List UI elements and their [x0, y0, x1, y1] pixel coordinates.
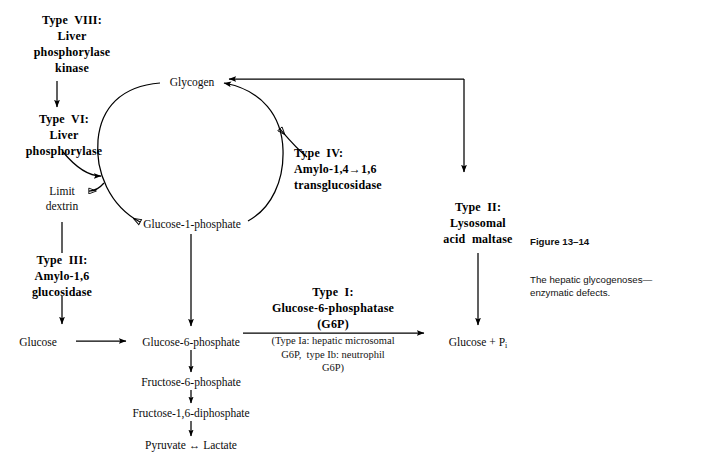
enzyme-label-type-viii: Type VIII: Liver phosphorylase kinase: [8, 12, 136, 76]
enzyme-label-type-iii: Type III: Amylo-1,6 glucosidase: [6, 252, 118, 300]
figure-caption-body: The hepatic glycogenoses— enzymatic defe…: [530, 274, 700, 299]
glucose-pi-subscript: i: [505, 341, 507, 350]
metabolite-limit-dextrin: Limit dextrin: [26, 184, 98, 214]
arc-g1p-to-glycogen: [224, 83, 283, 221]
enzyme-label-type-iv: Type IV: Amylo-1,4→1,6 transglucosidase: [294, 145, 434, 193]
glucose-pi-text: Glucose + P: [449, 336, 505, 348]
enzyme-note-type-i-subtypes: (Type Ia: hepatic microsomal G6P, type I…: [233, 334, 433, 375]
enzyme-label-type-ii: Type II: Lysosomal acid maltase: [418, 199, 538, 247]
metabolite-fructose-6-phosphate: Fructose-6-phosphate: [130, 375, 252, 390]
metabolite-glucose-plus-pi: Glucose + Pi: [432, 335, 524, 353]
metabolite-pyruvate-lactate: Pyruvate ↔ Lactate: [134, 438, 248, 453]
metabolite-glycogen: Glycogen: [160, 75, 224, 90]
metabolite-glucose: Glucose: [8, 335, 68, 350]
metabolite-fructose-1-6-diphosphate: Fructose-1,6-diphosphate: [120, 406, 262, 421]
figure-hepatic-glycogenoses: Type VIII: Liver phosphorylase kinase Ty…: [0, 0, 709, 475]
metabolite-glucose-6-phosphate: Glucose-6-phosphate: [133, 335, 249, 350]
figure-caption-title: Figure 13–14: [530, 236, 700, 249]
metabolite-glucose-1-phosphate: Glucose-1-phosphate: [136, 217, 248, 232]
enzyme-label-type-vi: Type VI: Liver phosphorylase: [0, 111, 128, 159]
figure-caption: Figure 13–14 The hepatic glycogenoses— e…: [530, 211, 700, 324]
enzyme-label-type-i: Type I: Glucose-6-phosphatase (G6P): [233, 284, 433, 332]
